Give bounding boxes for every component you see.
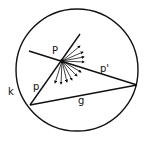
label-g: g [78,95,84,106]
geometry-diagram: P p' p k g [0,0,154,142]
reflection-arrows [55,46,84,84]
label-k: k [8,86,14,97]
line-through-p [29,51,137,85]
label-p: p [33,81,39,92]
label-p-prime: p' [100,63,109,74]
label-P: P [52,45,58,56]
